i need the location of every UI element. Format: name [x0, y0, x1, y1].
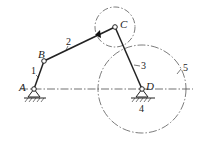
label-b: B: [38, 49, 45, 60]
label-member-4: 4: [139, 104, 144, 114]
joint-a: [32, 87, 37, 92]
label-c: C: [120, 19, 127, 30]
joint-d: [140, 87, 145, 92]
label-member-5: 5: [183, 63, 188, 73]
label-member-2: 2: [66, 37, 71, 47]
label-member-1: 1: [31, 66, 36, 76]
label-d: D: [146, 81, 154, 92]
leader-3: [134, 65, 140, 66]
linkage-diagram: A B C D 1 2 3 4 5: [0, 0, 207, 146]
leader-5: [177, 69, 181, 74]
joint-c: [113, 25, 118, 30]
link-2: [44, 27, 115, 61]
link-3: [115, 27, 142, 89]
label-member-3: 3: [141, 61, 146, 71]
label-a: A: [19, 82, 26, 93]
